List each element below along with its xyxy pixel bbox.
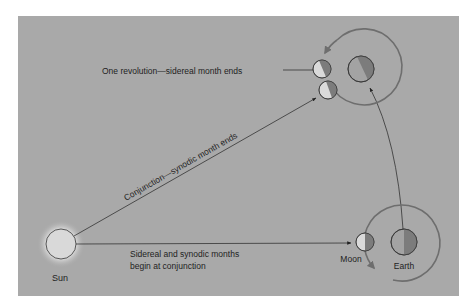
earth-start [391,229,417,255]
moon-start [356,233,374,251]
start-label-line1: Sidereal and synodic months [130,249,239,259]
moon-synodic-end [319,81,337,99]
moon-sidereal-end [313,60,331,78]
start-label-line2: begin at conjunction [130,261,206,271]
moon-label: Moon [340,254,362,264]
earth-label: Earth [394,261,415,271]
sidereal-label: One revolution—sidereal month ends [102,66,242,76]
earth-end [348,56,374,82]
sun-label: Sun [52,273,68,283]
lunar-month-diagram: Sun Sidereal and synodic months begin at… [0,0,476,308]
